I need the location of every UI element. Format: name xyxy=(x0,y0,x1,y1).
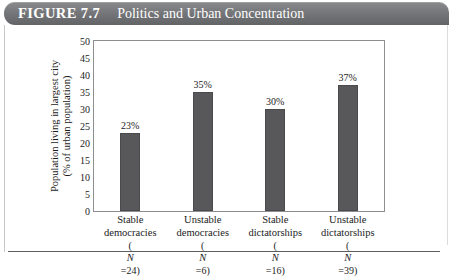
x-axis-sample-size-label: (N=39) xyxy=(312,240,385,277)
x-axis-category-label: Stabledictatorships(N=16) xyxy=(239,214,312,277)
bar-slot: 35% xyxy=(167,41,240,211)
x-axis-sample-size-label: (N=6) xyxy=(167,240,240,277)
bars-layer: 23%35%30%37% xyxy=(94,41,384,211)
y-axis-tick-label: 50 xyxy=(66,36,90,47)
bar[interactable] xyxy=(120,133,140,211)
y-axis-tick-label: 35 xyxy=(66,87,90,98)
bar[interactable] xyxy=(193,92,213,211)
y-axis-title-line1: Population living in largest city xyxy=(49,60,61,192)
bar-chart: Population living in largest city (% of … xyxy=(0,28,449,243)
bar-slot: 37% xyxy=(312,41,385,211)
x-axis-category-labels: Stabledemocracies(N=24)Unstabledemocraci… xyxy=(94,214,384,264)
figure-header-bar: FIGURE 7.7 Politics and Urban Concentrat… xyxy=(4,2,449,25)
bar-slot: 23% xyxy=(94,41,167,211)
y-axis-tick-label: 45 xyxy=(66,53,90,64)
x-axis-sample-size-label: (N=16) xyxy=(239,240,312,277)
y-axis-tick-label: 20 xyxy=(66,138,90,149)
y-axis-tick-label: 5 xyxy=(66,189,90,200)
x-axis-category-label: Unstabledemocracies(N=6) xyxy=(167,214,240,277)
x-axis-category-line: dictatorships xyxy=(239,227,312,240)
y-axis-tick-label: 40 xyxy=(66,70,90,81)
bar-value-label: 35% xyxy=(194,79,212,90)
figure-title: Politics and Urban Concentration xyxy=(117,6,304,22)
bar-value-label: 37% xyxy=(339,72,357,83)
y-axis-tick-label: 30 xyxy=(66,104,90,115)
x-axis-category-line: Unstable xyxy=(312,214,385,227)
bar-value-label: 23% xyxy=(121,120,139,131)
y-axis-tick-label: 25 xyxy=(66,121,90,132)
bar[interactable] xyxy=(338,85,358,211)
x-axis-category-line: Unstable xyxy=(167,214,240,227)
x-axis-category-label: Unstabledictatorships(N=39) xyxy=(312,214,385,277)
x-axis-category-line: Stable xyxy=(239,214,312,227)
x-axis-category-label: Stabledemocracies(N=24) xyxy=(94,214,167,277)
bar-slot: 30% xyxy=(239,41,312,211)
x-axis-sample-size-label: (N=24) xyxy=(94,240,167,277)
figure-number-label: FIGURE 7.7 xyxy=(18,5,100,22)
x-axis-category-line: democracies xyxy=(94,227,167,240)
y-axis-tick-label: 0 xyxy=(66,206,90,217)
y-axis-tick-label: 10 xyxy=(66,172,90,183)
figure-header-inner: FIGURE 7.7 Politics and Urban Concentrat… xyxy=(4,2,449,25)
x-axis-category-line: Stable xyxy=(94,214,167,227)
x-axis-category-line: democracies xyxy=(167,227,240,240)
y-axis-tick-labels: 05101520253035404550 xyxy=(66,40,90,212)
x-axis-category-line: dictatorships xyxy=(312,227,385,240)
y-axis-tick-label: 15 xyxy=(66,155,90,166)
bar[interactable] xyxy=(265,109,285,211)
bar-value-label: 30% xyxy=(266,96,284,107)
